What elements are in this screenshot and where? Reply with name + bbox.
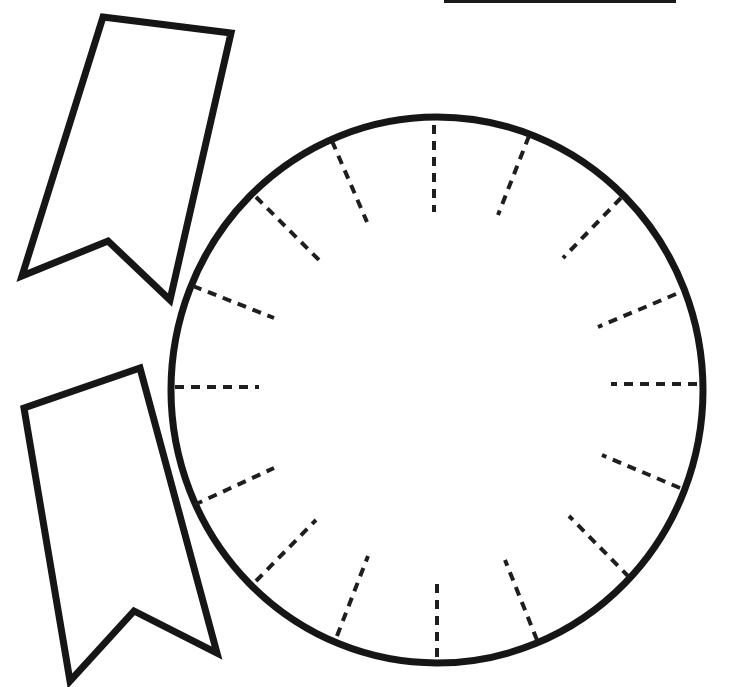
tick-mark: [569, 516, 629, 577]
template-canvas: [0, 0, 730, 687]
tick-mark: [256, 520, 316, 581]
upper-ribbon-shape: [22, 17, 231, 300]
tick-mark: [498, 136, 529, 215]
tick-mark: [193, 286, 274, 318]
tick-mark: [332, 141, 367, 222]
tick-mark: [256, 197, 319, 260]
tick-mark: [194, 468, 274, 505]
tick-mark: [602, 455, 680, 488]
tick-mark: [598, 294, 676, 327]
dial-circle: [171, 117, 703, 663]
dial-tick-marks: [175, 125, 697, 657]
tick-mark: [563, 198, 621, 258]
lower-ribbon-shape: [24, 368, 217, 681]
tick-mark: [337, 556, 368, 636]
tick-mark: [505, 560, 537, 640]
